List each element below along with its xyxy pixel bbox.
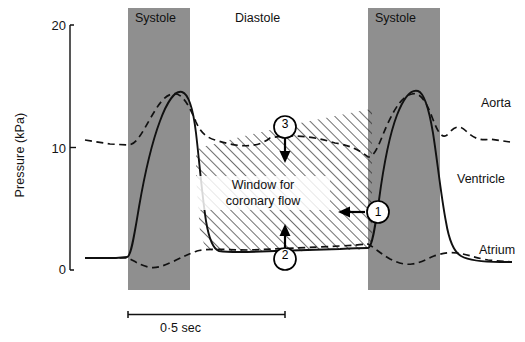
time-scale-bar [128,311,285,318]
marker-1-label: 1 [368,205,388,219]
pressure-curve-plot [0,0,525,342]
y-tick-label-10: 10 [36,141,66,156]
marker-2-label: 2 [275,248,295,262]
y-axis [70,25,76,270]
coronary-flow-window-label: Window for coronary flow [196,176,330,210]
phase-label-systole-right: Systole [375,11,416,25]
y-axis-label: Pressure (kPa) [13,95,27,215]
curve-label-ventricle: Ventricle [457,172,505,186]
systole-band-left [128,8,190,290]
time-scale-label: 0·5 sec [160,321,201,335]
marker-3-label: 3 [275,117,295,131]
cardiac-pressure-figure: Pressure (kPa) 20 10 0 Systole Diastole … [0,0,525,342]
y-tick-label-0: 0 [36,262,66,277]
curve-label-atrium: Atrium [479,243,515,257]
phase-label-systole-left: Systole [135,11,176,25]
window-label-line1: Window for [198,177,328,193]
curve-label-aorta: Aorta [481,96,511,110]
systole-band-right [368,8,440,290]
phase-label-diastole: Diastole [235,11,280,25]
window-label-line2: coronary flow [198,193,328,209]
y-tick-label-20: 20 [36,18,66,33]
